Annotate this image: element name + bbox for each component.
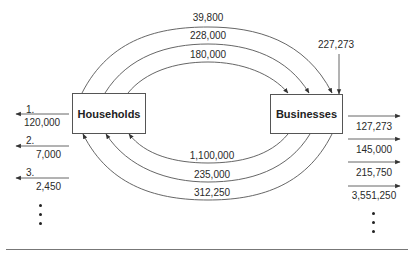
business-ellipsis-dot [372,230,375,233]
flow-bottom-label-3: 312,250 [194,187,230,198]
flow-arc-top-inner [128,62,288,93]
household-outflow-value-1: 120,000 [24,117,60,128]
household-ellipsis-dot [39,222,42,225]
business-ellipsis-dot [372,212,375,215]
flow-bottom-label-1: 1,100,000 [190,150,235,161]
flow-top-label-3: 180,000 [190,49,226,60]
households-label: Households [78,108,141,120]
flow-top-label-1: 39,800 [193,12,224,23]
businesses-label: Businesses [276,108,337,120]
household-ellipsis-dot [39,213,42,216]
household-outflow-value-2: 7,000 [36,149,61,160]
household-outflow-index-2: 2. [26,135,34,146]
businesses-node: Businesses [270,94,343,134]
inflow-label: 227,273 [318,39,354,50]
households-node: Households [72,93,146,134]
household-outflow-index-1: 1. [26,104,34,115]
bottom-divider [6,249,408,250]
household-ellipsis-dot [39,204,42,207]
business-outflow-value-1: 127,273 [356,121,392,132]
business-ellipsis-dot [372,221,375,224]
household-outflow-value-3: 2,450 [36,181,61,192]
business-outflow-value-2: 145,000 [356,144,392,155]
business-outflow-value-3: 215,750 [356,167,392,178]
household-outflow-index-3: 3. [26,167,34,178]
business-outflow-value-4: 3,551,250 [352,190,397,201]
flow-top-label-2: 228,000 [190,30,226,41]
flow-bottom-label-2: 235,000 [194,169,230,180]
